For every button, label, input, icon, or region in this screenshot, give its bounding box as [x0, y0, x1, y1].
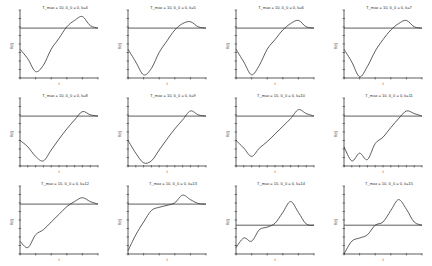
chart-panel: T_max = 10, θ_0 = 0, k=7θ(t)t: [324, 0, 432, 88]
chart-title: T_max = 10, θ_0 = 0, k=5: [150, 5, 196, 10]
x-axis-label: t: [382, 169, 384, 174]
chart-panel: T_max = 10, θ_0 = 0, k=5θ(t)t: [108, 0, 216, 88]
y-axis-label: θ(t): [225, 42, 230, 49]
line-chart: T_max = 10, θ_0 = 0, k=12θ(t)t: [0, 176, 108, 264]
data-line: [128, 22, 206, 75]
line-chart: T_max = 10, θ_0 = 0, k=7θ(t)t: [324, 0, 432, 88]
chart-title: T_max = 10, θ_0 = 0, k=7: [366, 5, 412, 10]
chart-panel: T_max = 10, θ_0 = 0, k=6θ(t)t: [216, 0, 324, 88]
x-axis-label: t: [58, 257, 60, 262]
chart-title: T_max = 10, θ_0 = 0, k=8: [42, 93, 88, 98]
chart-title: T_max = 10, θ_0 = 0, k=9: [150, 93, 196, 98]
line-chart: T_max = 10, θ_0 = 0, k=15θ(t)t: [324, 176, 432, 264]
chart-title: T_max = 10, θ_0 = 0, k=14: [257, 181, 306, 186]
data-line: [344, 20, 422, 76]
chart-title: T_max = 10, θ_0 = 0, k=15: [365, 181, 414, 186]
y-axis-label: θ(t): [117, 42, 122, 49]
y-axis-label: θ(t): [333, 130, 338, 137]
y-axis-label: θ(t): [9, 130, 14, 137]
x-axis-label: t: [274, 169, 276, 174]
line-chart: T_max = 10, θ_0 = 0, k=4θ(t)t: [0, 0, 108, 88]
data-line: [236, 202, 314, 248]
y-axis-label: θ(t): [225, 218, 230, 225]
line-chart: T_max = 10, θ_0 = 0, k=9θ(t)t: [108, 88, 216, 176]
line-chart: T_max = 10, θ_0 = 0, k=14θ(t)t: [216, 176, 324, 264]
chart-title: T_max = 10, θ_0 = 0, k=12: [41, 181, 90, 186]
y-axis-label: θ(t): [117, 130, 122, 137]
line-chart: T_max = 10, θ_0 = 0, k=8θ(t)t: [0, 88, 108, 176]
chart-panel: T_max = 10, θ_0 = 0, k=8θ(t)t: [0, 88, 108, 176]
x-axis-label: t: [58, 169, 60, 174]
data-line: [20, 198, 98, 248]
x-axis-label: t: [166, 169, 168, 174]
data-line: [128, 111, 206, 164]
chart-grid: T_max = 10, θ_0 = 0, k=4θ(t)tT_max = 10,…: [0, 0, 432, 266]
chart-title: T_max = 10, θ_0 = 0, k=10: [257, 93, 306, 98]
y-axis-label: θ(t): [9, 42, 14, 49]
line-chart: T_max = 10, θ_0 = 0, k=5θ(t)t: [108, 0, 216, 88]
chart-panel: T_max = 10, θ_0 = 0, k=10θ(t)t: [216, 88, 324, 176]
chart-panel: T_max = 10, θ_0 = 0, k=12θ(t)t: [0, 176, 108, 264]
data-line: [344, 111, 422, 161]
line-chart: T_max = 10, θ_0 = 0, k=6θ(t)t: [216, 0, 324, 88]
x-axis-label: t: [166, 257, 168, 262]
x-axis-label: t: [274, 257, 276, 262]
data-line: [20, 111, 98, 161]
y-axis-label: θ(t): [333, 42, 338, 49]
x-axis-label: t: [382, 81, 384, 86]
chart-panel: T_max = 10, θ_0 = 0, k=13θ(t)t: [108, 176, 216, 264]
line-chart: T_max = 10, θ_0 = 0, k=11θ(t)t: [324, 88, 432, 176]
y-axis-label: θ(t): [9, 218, 14, 225]
y-axis-label: θ(t): [333, 218, 338, 225]
chart-panel: T_max = 10, θ_0 = 0, k=11θ(t)t: [324, 88, 432, 176]
data-line: [236, 20, 314, 75]
chart-title: T_max = 10, θ_0 = 0, k=6: [258, 5, 304, 10]
x-axis-label: t: [166, 81, 168, 86]
x-axis-label: t: [382, 257, 384, 262]
chart-panel: T_max = 10, θ_0 = 0, k=9θ(t)t: [108, 88, 216, 176]
data-line: [344, 200, 422, 254]
y-axis-label: θ(t): [117, 218, 122, 225]
chart-panel: T_max = 10, θ_0 = 0, k=14θ(t)t: [216, 176, 324, 264]
chart-panel: T_max = 10, θ_0 = 0, k=15θ(t)t: [324, 176, 432, 264]
chart-title: T_max = 10, θ_0 = 0, k=11: [365, 93, 413, 98]
data-line: [236, 110, 314, 157]
chart-panel: T_max = 10, θ_0 = 0, k=4θ(t)t: [0, 0, 108, 88]
line-chart: T_max = 10, θ_0 = 0, k=13θ(t)t: [108, 176, 216, 264]
data-line: [20, 16, 98, 71]
line-chart: T_max = 10, θ_0 = 0, k=10θ(t)t: [216, 88, 324, 176]
chart-title: T_max = 10, θ_0 = 0, k=4: [42, 5, 88, 10]
chart-title: T_max = 10, θ_0 = 0, k=13: [149, 181, 198, 186]
x-axis-label: t: [274, 81, 276, 86]
data-line: [128, 195, 206, 251]
x-axis-label: t: [58, 81, 60, 86]
y-axis-label: θ(t): [225, 130, 230, 137]
